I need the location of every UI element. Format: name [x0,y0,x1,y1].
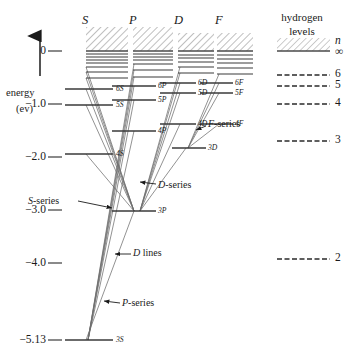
column-header-S: S [82,14,88,27]
level-label-3S: 3S [116,336,124,344]
axis-tick-label-0: 0 [0,45,46,57]
continuum-band-F [217,33,253,51]
continuum-band-P [133,27,173,51]
transition-d-series-2 [140,124,180,211]
hydrogen-level-label-3: 3 [335,134,341,146]
level-label-4P: 4P [158,127,166,135]
transition-d-lines-0 [86,211,134,340]
hydrogen-infinity-symbol: ∞ [335,46,343,58]
transition-d-series-1 [140,93,180,211]
energy-axis-label: energy [6,88,34,99]
level-label-3D: 3D [208,144,217,152]
hydrogen-level-label-2: 2 [335,252,341,264]
hydrogen-legend-title-line1: hydrogen [252,12,349,23]
annotation-arrows-group [78,126,206,303]
axis-tick-label-5: −5.13 [0,334,46,346]
sodium-energy-level-diagram: 6S5S4S3S6P5P4P3P6D5D4D3D6F5F4F0−1.0−2.0−… [0,0,349,354]
annotation-arrow-p-series [104,301,120,303]
axis-tick-label-4: −4.0 [0,257,46,269]
level-label-6D: 6D [198,79,207,87]
hydrogen-level-label-5: 5 [335,79,341,91]
annotation-d-series: D-series [158,180,191,190]
annotation-arrow-s-series [78,201,112,208]
annotation-d-lines: D lines [133,248,162,258]
transition-p-series-2 [88,131,134,340]
annotation-s-series: S-series [28,196,59,206]
level-label-4D: 4D [198,120,207,128]
level-label-5S: 5S [116,101,124,109]
level-label-6F: 6F [235,79,243,87]
level-label-5D: 5D [198,89,207,97]
annotation-f-series: F-series [208,119,240,129]
level-label-5F: 5F [235,89,243,97]
column-header-F: F [215,14,223,27]
level-label-6P: 6P [158,82,166,90]
annotation-p-series: P-series [122,298,154,308]
axis-tick-label-2: −2.0 [0,151,46,163]
diagram-svg-layer [0,0,349,354]
continuum-band-D [178,33,214,51]
energy-axis-group [40,36,62,340]
level-label-3P: 3P [158,207,166,215]
hydrogen-levels-group [277,38,330,259]
continuum-band-S [86,27,128,51]
hydrogen-level-label-4: 4 [335,97,341,109]
energy-axis-unit: (ev) [16,104,33,115]
column-header-P: P [129,14,137,27]
continuum-bands-group [86,27,253,51]
transition-s-series-1 [86,105,134,211]
level-label-6S: 6S [116,85,124,93]
level-label-5P: 5P [158,96,166,104]
column-header-D: D [174,14,183,27]
hydrogen-continuum-band [277,38,330,51]
level-label-4S: 4S [116,150,124,158]
